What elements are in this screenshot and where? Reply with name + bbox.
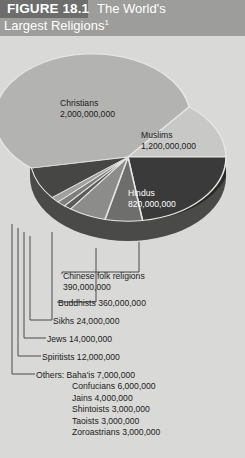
callout-others-line-2: Confucians 6,000,000 xyxy=(36,381,160,392)
leader-line-jews xyxy=(24,232,46,338)
callout-others-line-1: Others: Baha'is 7,000,000 xyxy=(36,370,160,381)
callout-sikhs: Sikhs 24,000,000 xyxy=(53,316,119,327)
pie-label-hindus-value: 820,000,000 xyxy=(128,199,176,210)
figure-title-line-1: The World's xyxy=(97,1,166,16)
figure-container: FIGURE 18.1 The World's Largest Religion… xyxy=(0,0,245,458)
figure-title-line-2: Largest Religions1 xyxy=(4,18,109,33)
pie-label-muslims-value: 1,200,000,000 xyxy=(141,141,196,152)
figure-number-label: FIGURE 18.1 xyxy=(7,1,89,16)
callout-others-line-6: Zoroastrians 3,000,000 xyxy=(36,427,160,438)
callout-others-line-5: Taoists 3,000,000 xyxy=(36,416,160,427)
leader-line-chinese xyxy=(62,242,139,272)
pie-label-christians: Christians 2,000,000,000 xyxy=(60,98,115,120)
figure-title-text: Largest Religions xyxy=(4,18,104,33)
callout-others-line-3: Jains 4,000,000 xyxy=(36,393,160,404)
callout-chinese-folk-religions: Chinese folk religions 390,000,000 xyxy=(63,271,145,294)
pie-label-hindus: Hindus 820,000,000 xyxy=(128,188,176,210)
callout-jews: Jews 14,000,000 xyxy=(47,334,112,345)
pie-label-christians-value: 2,000,000,000 xyxy=(60,109,115,120)
callout-chinese-line-1: Chinese folk religions xyxy=(63,271,145,282)
pie-label-muslims-name: Muslims xyxy=(141,130,196,141)
leader-line-callout-sikhs xyxy=(30,236,52,320)
callout-others-line-4: Shintoists 3,000,000 xyxy=(36,404,160,415)
pie-label-christians-name: Christians xyxy=(60,98,115,109)
callout-spiritists: Spiritists 12,000,000 xyxy=(42,352,120,363)
callout-chinese-line-2: 390,000,000 xyxy=(63,282,145,293)
chart-area: Christians 2,000,000,000 Muslims 1,200,0… xyxy=(0,36,245,458)
callout-buddhists: Buddhists 360,000,000 xyxy=(58,298,146,309)
callout-others: Others: Baha'is 7,000,000 Confucians 6,0… xyxy=(36,370,160,438)
pie-label-muslims: Muslims 1,200,000,000 xyxy=(141,130,196,152)
figure-title-footnote-marker: 1 xyxy=(104,18,108,27)
pie-label-hindus-name: Hindus xyxy=(128,188,176,199)
figure-header-band: FIGURE 18.1 The World's Largest Religion… xyxy=(0,0,245,36)
